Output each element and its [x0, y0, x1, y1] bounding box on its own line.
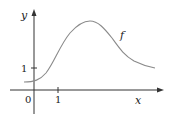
y-axis-label: y [20, 9, 28, 22]
curve-f [24, 21, 155, 82]
graph-canvas: y x f 0 1 1 [0, 0, 172, 119]
x-tick-label-1: 1 [55, 94, 61, 105]
curve-label-f: f [119, 29, 126, 42]
x-axis-arrow-icon [157, 88, 164, 93]
x-axis-label: x [135, 94, 142, 107]
origin-label: 0 [25, 94, 31, 105]
y-tick-label-1: 1 [21, 63, 27, 74]
function-graph: y x f 0 1 1 [0, 0, 172, 119]
y-axis-arrow-icon [32, 9, 37, 16]
